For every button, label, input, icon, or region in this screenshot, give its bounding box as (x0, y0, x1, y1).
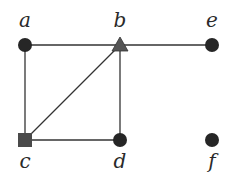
node-b-triangle-icon (112, 37, 128, 51)
node-a-circle-icon (18, 38, 32, 52)
nodes (18, 37, 219, 147)
node-e-circle-icon (205, 38, 219, 52)
label-f: f (206, 149, 219, 173)
node-c-square-icon (18, 133, 32, 147)
label-a: a (19, 8, 31, 32)
label-b: b (114, 8, 127, 32)
label-e: e (206, 8, 218, 32)
label-d: d (114, 149, 127, 173)
edges (25, 45, 212, 140)
edge-c-b (25, 45, 120, 140)
node-d-circle-icon (113, 133, 127, 147)
label-c: c (19, 149, 30, 173)
graph-diagram: a b e c d f (0, 0, 247, 181)
node-f-circle-icon (205, 133, 219, 147)
labels: a b e c d f (19, 8, 219, 173)
